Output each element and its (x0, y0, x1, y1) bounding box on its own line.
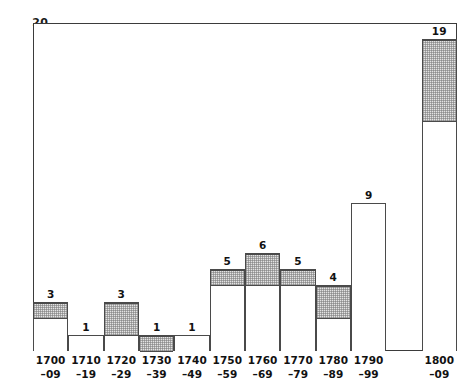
bar-value-label: 5 (280, 255, 315, 267)
bar-value-label: 1 (174, 321, 209, 333)
bar-value-label: 1 (139, 321, 174, 333)
bar-value-label: 19 (422, 25, 457, 37)
bar-value-label: 9 (351, 189, 386, 201)
x-axis-tick-label-line1: 1780 (319, 354, 349, 366)
bar-shaded-segment (140, 336, 173, 352)
bar (68, 335, 103, 351)
x-axis-tick-label-line1: 1730 (142, 354, 172, 366)
bar-value-label: 5 (210, 255, 245, 267)
bar-shaded-segment (105, 303, 138, 336)
bar-value-label: 4 (316, 271, 351, 283)
bar (422, 39, 457, 351)
bar (245, 253, 280, 351)
x-axis-tick-label-line1: 1800 (425, 354, 455, 366)
x-axis-tick-label-line1: 1710 (71, 354, 101, 366)
x-axis-tick-label-line1: 1790 (354, 354, 384, 366)
bar (351, 203, 386, 351)
bar-shaded-segment (423, 40, 456, 122)
bar-shaded-segment (281, 270, 314, 286)
bar-shaded-segment (211, 270, 244, 286)
bar-value-label: 3 (104, 288, 139, 300)
bar-shaded-segment (317, 286, 350, 319)
bar-shaded-segment (34, 303, 67, 319)
x-axis-tick-label-line1: 1700 (36, 354, 66, 366)
x-axis-tick-label: 1790–99 (345, 353, 392, 381)
x-axis-tick-label-line1: 1770 (283, 354, 313, 366)
bar (33, 302, 68, 351)
bar-shaded-segment (246, 254, 279, 287)
x-axis-tick-label-line1: 1760 (248, 354, 278, 366)
bar-value-label: 3 (33, 288, 68, 300)
histogram-chart: 2015105 313115654919 1700–091710–191720–… (0, 0, 471, 387)
bar (174, 335, 209, 351)
bar (280, 269, 315, 351)
bar (139, 335, 174, 351)
x-axis: 1700–091710–191720–291730–391740–491750–… (33, 353, 457, 387)
x-axis-tick-label-line1: 1740 (177, 354, 207, 366)
bar (210, 269, 245, 351)
bar (104, 302, 139, 351)
x-axis-tick-label-line1: 1750 (213, 354, 243, 366)
x-axis-tick-label-line1: 1720 (107, 354, 137, 366)
x-axis-tick-label: 1800–09 (416, 353, 463, 381)
bar (316, 285, 351, 351)
bar-value-label: 6 (245, 239, 280, 251)
x-axis-tick-label-line2: –09 (416, 367, 463, 381)
bars-layer: 313115654919 (33, 23, 457, 351)
x-axis-tick-label-line2: –99 (345, 367, 392, 381)
bar-value-label: 1 (68, 321, 103, 333)
